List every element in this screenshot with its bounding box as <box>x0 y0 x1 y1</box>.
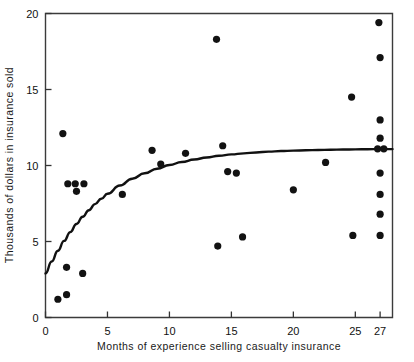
data-point <box>377 232 384 239</box>
data-point <box>64 180 71 187</box>
data-point <box>377 211 384 218</box>
y-tick-label: 20 <box>26 8 38 20</box>
data-point <box>377 170 384 177</box>
data-point <box>63 291 70 298</box>
figure-background <box>0 0 414 362</box>
data-point <box>377 135 384 142</box>
x-tick-label: 10 <box>163 325 175 337</box>
data-point <box>374 145 381 152</box>
x-tick-label: 0 <box>42 325 48 337</box>
data-point <box>224 168 231 175</box>
data-point <box>219 142 226 149</box>
y-tick-label: 10 <box>26 160 38 172</box>
data-point <box>213 36 220 43</box>
y-tick-label: 0 <box>32 312 38 324</box>
data-point <box>54 296 61 303</box>
data-point <box>148 147 155 154</box>
data-point <box>322 159 329 166</box>
x-axis-label: Months of experience selling casualty in… <box>97 340 341 352</box>
data-point <box>375 19 382 26</box>
data-point <box>63 264 70 271</box>
data-point <box>80 180 87 187</box>
scatter-plot-figure: 051015202527 05101520 Months of experien… <box>0 0 414 362</box>
data-point <box>349 232 356 239</box>
data-point <box>59 130 66 137</box>
data-point <box>380 145 387 152</box>
data-point <box>72 180 79 187</box>
data-point <box>239 233 246 240</box>
x-tick-label: 15 <box>225 325 237 337</box>
data-point <box>119 191 126 198</box>
x-tick-label: 5 <box>104 325 110 337</box>
data-point <box>79 270 86 277</box>
data-point <box>157 160 164 167</box>
x-tick-label: 20 <box>287 325 299 337</box>
data-point <box>214 242 221 249</box>
data-point <box>348 94 355 101</box>
y-tick-label: 5 <box>32 236 38 248</box>
data-point <box>290 186 297 193</box>
data-point <box>182 150 189 157</box>
data-point <box>377 116 384 123</box>
data-point <box>73 188 80 195</box>
y-tick-label: 15 <box>26 84 38 96</box>
x-tick-label: 27 <box>374 325 386 337</box>
data-point <box>233 170 240 177</box>
y-axis-label: Thousands of dollars in insurance sold <box>3 67 15 263</box>
data-point <box>377 54 384 61</box>
x-tick-label: 25 <box>349 325 361 337</box>
data-point <box>377 191 384 198</box>
